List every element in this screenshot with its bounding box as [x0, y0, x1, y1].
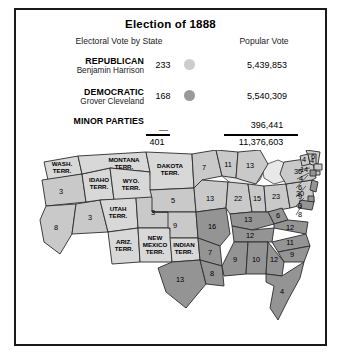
terr-label-new-mexico: NEW: [148, 234, 163, 241]
ev-label-nevada: 3: [88, 213, 92, 222]
party-block-republican: REPUBLICAN Benjamin Harrison: [22, 56, 144, 76]
ev-label-new-hampshire: 4: [310, 156, 314, 165]
callout-label-maryland: 8: [298, 210, 302, 219]
party-name-republican: REPUBLICAN: [22, 56, 144, 66]
svg-text:TERR.: TERR.: [122, 184, 141, 191]
callout-label-connecticut: 6: [298, 183, 302, 192]
terr-label-dakota: DAKOTA: [157, 162, 184, 169]
ev-label-north-carolina: 11: [286, 238, 294, 247]
ev-label-vermont: 4: [302, 155, 306, 164]
ev-label-virginia: 12: [286, 223, 294, 232]
terr-label-montana: MONTANA: [108, 156, 140, 163]
ev-label-kentucky: 13: [244, 215, 252, 224]
ev-label-kansas: 9: [173, 221, 177, 230]
total-popular-votes: 11,376,603: [206, 137, 316, 147]
state-texas: [158, 260, 206, 308]
svg-text:MEXICO: MEXICO: [143, 241, 168, 248]
party-block-minor: MINOR PARTIES: [22, 116, 144, 126]
callout-label-delaware: 3: [298, 201, 302, 210]
ev-label-ohio: 23: [272, 192, 280, 201]
party-name-democratic: DEMOCRATIC: [22, 87, 144, 97]
column-header-popular: Popular Vote: [212, 36, 316, 46]
party-name-minor: MINOR PARTIES: [22, 116, 144, 126]
ev-label-alabama: 10: [252, 255, 260, 264]
ev-label-colorado: 3: [151, 208, 155, 217]
total-rule-popular: [224, 134, 298, 136]
callout-label-massachusetts: 14: [300, 165, 308, 174]
candidate-name-republican: Benjamin Harrison: [22, 66, 144, 76]
tally-row-republican: REPUBLICAN Benjamin Harrison 233 5,439,8…: [22, 56, 318, 78]
party-block-democratic: DEMOCRATIC Grover Cleveland: [22, 87, 144, 107]
state-connecticut: [310, 170, 316, 176]
total-electoral-votes: 401: [144, 137, 170, 147]
candidate-name-democratic: Grover Cleveland: [22, 97, 144, 107]
svg-text:TERR.: TERR.: [115, 163, 134, 170]
terr-label-washington: WASH.: [52, 160, 73, 167]
ev-label-iowa: 13: [206, 194, 214, 203]
ev-label-arkansas: 7: [208, 248, 212, 257]
terr-label-utah: UTAH: [110, 205, 127, 212]
svg-text:TERR.: TERR.: [90, 183, 109, 190]
svg-text:TERR.: TERR.: [53, 167, 72, 174]
state-oregon: [42, 174, 86, 206]
election-infographic-panel: Election of 1888 Electoral Vote by State…: [14, 8, 327, 346]
electoral-votes-republican: 233: [150, 60, 176, 70]
ev-label-tennessee: 12: [246, 231, 254, 240]
electoral-map: 3 8 3 3 5 9 7 13 16 7 13 8 11 13 22 15 2…: [16, 150, 325, 344]
svg-text:TERR.: TERR.: [161, 169, 180, 176]
ev-label-louisiana: 8: [210, 269, 214, 278]
terr-label-idaho: IDAHO: [89, 176, 109, 183]
ev-label-nebraska: 5: [171, 196, 175, 205]
popular-votes-republican: 5,439,853: [212, 60, 322, 70]
popular-votes-minor: 396,441: [212, 120, 322, 130]
svg-text:TERR.: TERR.: [109, 212, 128, 219]
state-massachusetts: [314, 164, 322, 170]
column-header-electoral: Electoral Vote by State: [44, 36, 194, 46]
ev-label-mississippi: 9: [233, 255, 237, 264]
ev-label-west-virginia: 6: [276, 211, 280, 220]
ev-label-oregon: 3: [59, 187, 63, 196]
popular-votes-democratic: 5,540,309: [212, 91, 322, 101]
ev-label-missouri: 16: [208, 222, 216, 231]
callout-label-rhode-island: 4: [299, 174, 303, 183]
ev-label-minnesota: 7: [202, 163, 206, 172]
ev-label-illinois: 22: [234, 194, 242, 203]
ev-label-wisconsin: 11: [224, 160, 232, 169]
legend-swatch-republican: [184, 59, 195, 70]
ev-label-georgia: 12: [270, 255, 278, 264]
svg-text:TERR.: TERR.: [115, 245, 134, 252]
page-title: Election of 1888: [16, 18, 325, 30]
legend-swatch-democratic: [184, 90, 195, 101]
callout-label-new-jersey: 9: [298, 192, 302, 201]
ev-label-south-carolina: 9: [290, 250, 294, 259]
svg-text:TERR.: TERR.: [146, 248, 165, 255]
terr-label-wyoming: WYO.: [123, 177, 140, 184]
tally-row-democratic: DEMOCRATIC Grover Cleveland 168 5,540,30…: [22, 87, 318, 109]
ev-label-california: 8: [54, 223, 58, 232]
terr-label-arizona: ARIZ.: [116, 238, 132, 245]
ev-label-florida: 4: [280, 287, 284, 296]
terr-label-indian: INDIAN: [173, 241, 195, 248]
electoral-votes-democratic: 168: [150, 91, 176, 101]
ev-label-indiana: 15: [253, 194, 261, 203]
ev-label-michigan: 13: [246, 161, 254, 170]
state-new-jersey: [310, 180, 318, 192]
svg-text:TERR.: TERR.: [175, 248, 194, 255]
ev-label-texas: 13: [176, 275, 184, 284]
total-rule-electoral: [146, 134, 170, 136]
